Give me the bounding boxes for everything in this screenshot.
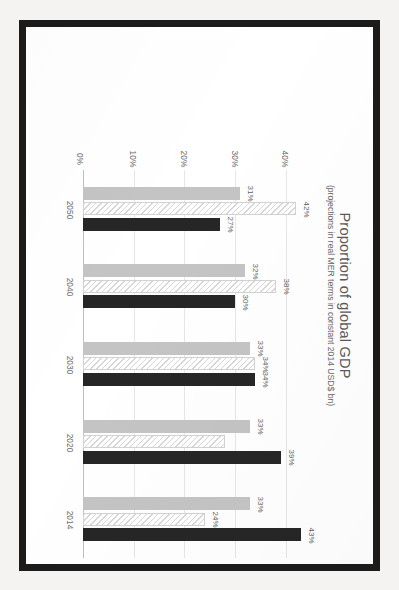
bar-value-label: 30% bbox=[241, 293, 250, 311]
bar-value-label: 33% bbox=[256, 340, 265, 358]
bar-rest-of-the-world-2014 bbox=[83, 497, 250, 510]
bar-chart: Proportion of global GDP (projections in… bbox=[26, 27, 373, 564]
bar-value-label: 43% bbox=[306, 526, 315, 544]
value-axis-tick-label: 0% bbox=[75, 153, 85, 165]
bar-g7-2020 bbox=[83, 451, 281, 464]
bar-rest-of-the-world-2020 bbox=[83, 420, 250, 433]
bar-rest-of-the-world-2030 bbox=[83, 342, 250, 355]
value-axis-tick-label: 40% bbox=[280, 151, 290, 168]
page-surface: Proportion of global GDP (projections in… bbox=[26, 27, 373, 564]
bar-value-label: 33% bbox=[256, 418, 265, 436]
bar-value-label: 42% bbox=[301, 200, 310, 218]
bar-value-label: 39% bbox=[286, 449, 295, 467]
bar-value-label: 33% bbox=[256, 495, 265, 513]
chart-legend: G7 (Canada, France, Germany, Italy, Japa… bbox=[27, 176, 73, 564]
bar-value-label: 34% bbox=[261, 356, 270, 374]
legend-entry-e7[interactable]: E7 (Brazil, China, India, Indonesia, Mex… bbox=[44, 176, 58, 564]
chart-title-block: Proportion of global GDP (projections in… bbox=[311, 27, 369, 564]
bar-g7-2014 bbox=[83, 528, 301, 541]
bar-rest-of-the-world-2040 bbox=[83, 264, 245, 277]
legend-entry-row[interactable]: Rest of the world bbox=[29, 176, 43, 564]
bar-value-label: 34% bbox=[261, 371, 270, 389]
bar-value-label: 24% bbox=[210, 511, 219, 529]
rotated-chart-container: Proportion of global GDP (projections in… bbox=[26, 27, 373, 564]
bar-value-label: 32% bbox=[251, 262, 260, 280]
scanned-page-frame: Proportion of global GDP (projections in… bbox=[19, 20, 380, 571]
bar-e7-2040 bbox=[83, 280, 276, 293]
gridline bbox=[286, 170, 287, 558]
bar-e7-2050 bbox=[83, 202, 296, 215]
bar-rest-of-the-world-2050 bbox=[83, 187, 240, 200]
bar-e7-2014 bbox=[83, 513, 205, 526]
bar-g7-2030 bbox=[83, 373, 255, 386]
value-axis: 0%10%20%30%40% bbox=[83, 134, 311, 168]
value-axis-tick-label: 30% bbox=[229, 151, 239, 168]
bar-value-label: 27% bbox=[225, 216, 234, 234]
legend-entry-g7[interactable]: G7 (Canada, France, Germany, Italy, Japa… bbox=[59, 176, 73, 564]
value-axis-tick-label: 10% bbox=[128, 151, 138, 168]
chart-subtitle: (projections in real MER terms in consta… bbox=[327, 185, 337, 406]
chart-title: Proportion of global GDP bbox=[338, 213, 354, 379]
bar-value-label: 31% bbox=[246, 185, 255, 203]
value-axis-tick-label: 20% bbox=[179, 151, 189, 168]
bar-value-label: 38% bbox=[281, 278, 290, 296]
plot-area: 43%24%33%39%33%34%34%33%30%38%32%27%42%3… bbox=[83, 170, 311, 558]
bar-e7-2030 bbox=[83, 358, 255, 371]
bar-g7-2050 bbox=[83, 218, 220, 231]
bar-g7-2040 bbox=[83, 295, 235, 308]
bar-e7-2020 bbox=[83, 435, 225, 448]
